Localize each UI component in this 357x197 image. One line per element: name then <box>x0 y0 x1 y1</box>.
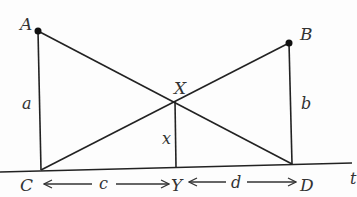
label-C: C <box>20 175 33 195</box>
label-d: d <box>231 173 241 192</box>
point-A-dot <box>35 28 42 35</box>
label-B: B <box>299 24 313 44</box>
label-b: b <box>301 94 311 113</box>
label-X: X <box>172 78 187 98</box>
crossed-ladders-diagram: A B X C Y D a b x c d t <box>0 0 357 197</box>
segment-a <box>38 31 41 170</box>
label-t: t <box>350 169 357 188</box>
diagonal-CB <box>41 43 289 170</box>
label-c: c <box>99 174 108 193</box>
segment-x <box>175 101 176 167</box>
label-Y: Y <box>171 175 184 195</box>
label-x: x <box>162 129 171 148</box>
label-a: a <box>22 94 32 113</box>
segment-b <box>289 43 292 164</box>
point-B-dot <box>286 40 293 47</box>
label-A: A <box>18 14 32 34</box>
label-D: D <box>299 175 314 195</box>
